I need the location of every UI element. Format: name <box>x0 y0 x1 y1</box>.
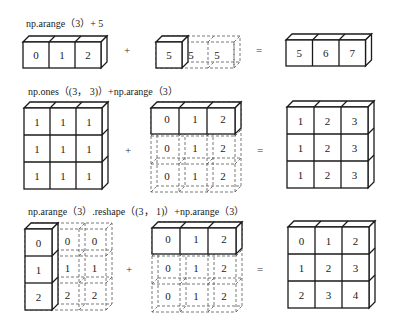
cell-value: 4 <box>353 289 359 301</box>
cell-value: 2 <box>220 113 226 125</box>
cell-value: 2 <box>85 49 91 61</box>
cell-value: 1 <box>193 233 199 245</box>
cell-value: 0 <box>36 237 42 249</box>
cell-value: 2 <box>221 233 227 245</box>
broadcast-cell-value: 0 <box>165 290 171 302</box>
cell-value: 1 <box>59 49 65 61</box>
broadcast-cell-value: 0 <box>92 235 98 247</box>
cell-value: 1 <box>60 143 66 155</box>
cell-value: 2 <box>326 262 332 274</box>
broadcast-cell-value: 2 <box>220 142 226 154</box>
broadcast-cell-value: 5 <box>188 49 194 61</box>
broadcast-cell-value: 1 <box>65 262 71 274</box>
broadcast-cell-value: 1 <box>193 262 199 274</box>
cell-value: 1 <box>326 235 332 247</box>
cell-value: 0 <box>299 235 305 247</box>
cell-value: 0 <box>33 49 39 61</box>
row-3-column-plus-row: 001122012012012012012123234 <box>25 221 375 312</box>
broadcast-cell-value: 2 <box>92 289 98 301</box>
broadcast-cell-value: 5 <box>214 49 220 61</box>
broadcast-cell-value: 2 <box>221 262 227 274</box>
broadcast-cell-value: 2 <box>221 290 227 302</box>
cell-value: 2 <box>325 142 331 154</box>
cell-value: 2 <box>36 291 42 303</box>
cell-value: 1 <box>34 116 40 128</box>
result-grid: 567 <box>286 34 372 66</box>
cell-value: 3 <box>326 289 332 301</box>
cell-value: 1 <box>36 264 42 276</box>
broadcast-cell-value: 0 <box>165 262 171 274</box>
broadcast-diagram-canvas: 0125555671111111110120120121231231230011… <box>0 0 395 330</box>
operand-a-grid: 111111111 <box>24 102 108 189</box>
cell-value: 1 <box>60 116 66 128</box>
broadcast-cell-value: 0 <box>164 142 170 154</box>
cell-value: 2 <box>325 115 331 127</box>
operand-b-grid: 5 <box>156 36 188 68</box>
broadcast-cell-value: 1 <box>193 290 199 302</box>
broadcast-cell-value: 1 <box>192 142 198 154</box>
cell-value: 1 <box>34 170 40 182</box>
row-2-ones-plus-arange: 111111111012012012123123123 <box>24 101 374 192</box>
broadcast-cell-value: 1 <box>92 262 98 274</box>
cell-value: 1 <box>298 142 304 154</box>
broadcast-cell-value: 0 <box>164 170 170 182</box>
cell-value: 1 <box>86 170 92 182</box>
cell-value: 1 <box>192 113 198 125</box>
cell-value: 2 <box>353 235 359 247</box>
cell-value: 1 <box>60 170 66 182</box>
cell-value: 0 <box>164 113 170 125</box>
cell-value: 1 <box>86 143 92 155</box>
row-1-arange-plus-scalar: 012555567 <box>23 34 372 68</box>
broadcast-cell-value: 1 <box>192 170 198 182</box>
cell-value: 3 <box>352 169 358 181</box>
cell-value: 1 <box>298 169 304 181</box>
cell-value: 1 <box>299 262 305 274</box>
cell-value: 2 <box>325 169 331 181</box>
result-grid: 123123123 <box>287 101 374 188</box>
operand-a-grid: 012 <box>23 36 107 68</box>
cell-value: 3 <box>353 262 359 274</box>
result-grid: 012123234 <box>288 221 375 308</box>
cell-value: 0 <box>165 233 171 245</box>
cell-value: 3 <box>352 142 358 154</box>
cell-value: 5 <box>297 47 303 59</box>
cell-value: 3 <box>352 115 358 127</box>
cell-value: 1 <box>34 143 40 155</box>
cell-value: 6 <box>323 47 329 59</box>
broadcast-cell-value: 0 <box>65 235 71 247</box>
operand-a-grid: 012 <box>25 223 58 310</box>
cell-value: 1 <box>86 116 92 128</box>
cell-value: 1 <box>298 115 304 127</box>
cell-value: 5 <box>166 49 172 61</box>
broadcast-cell-value: 2 <box>65 289 71 301</box>
broadcast-cell-value: 2 <box>220 170 226 182</box>
cell-value: 7 <box>350 47 356 59</box>
cell-value: 2 <box>299 289 305 301</box>
